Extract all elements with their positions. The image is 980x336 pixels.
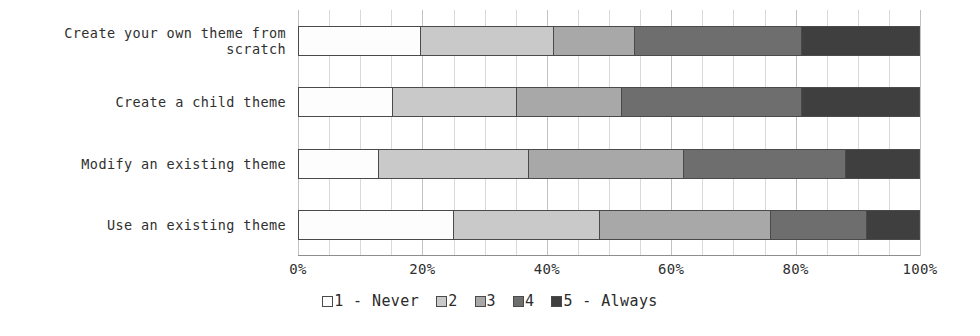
legend-swatch-icon [551,296,562,307]
bar-segment-1[interactable] [299,88,392,116]
legend-label: 1 - Never [334,292,419,310]
legend-swatch-icon [322,296,333,307]
bar-segment-3[interactable] [528,150,683,178]
x-axis-tick-label: 100% [903,260,938,278]
bar-segment-5[interactable] [845,150,919,178]
bar-segment-3[interactable] [516,88,621,116]
legend-item[interactable]: 4 [513,292,534,310]
bar-segment-5[interactable] [801,88,919,116]
category-label-line: scratch [0,41,286,57]
stacked-bar-chart: Create your own theme fromscratchCreate … [0,0,980,336]
plot-area [298,10,920,256]
legend-item[interactable]: 1 - Never [322,292,419,310]
legend-swatch-icon [436,296,447,307]
category-label-line: Create a child theme [0,94,286,110]
x-axis-tick-labels: 0%20%40%60%80%100% [298,260,920,282]
bar-segment-1[interactable] [299,27,420,55]
category-label: Use an existing theme [0,217,286,233]
y-axis-category-labels: Create your own theme fromscratchCreate … [0,10,292,256]
legend-label: 4 [525,292,534,310]
legend-item[interactable]: 3 [475,292,496,310]
category-label-line: Use an existing theme [0,217,286,233]
stacked-bar[interactable] [298,87,920,117]
legend-label: 5 - Always [563,292,657,310]
x-axis-tick-label: 80% [783,260,809,278]
category-label-line: Create your own theme from [0,25,286,41]
bar-segment-3[interactable] [553,27,634,55]
category-label-line: Modify an existing theme [0,156,286,172]
category-label: Create a child theme [0,94,286,110]
gridline-major [920,10,921,256]
bar-segment-1[interactable] [299,211,453,239]
stacked-bar[interactable] [298,26,920,56]
bar-segment-5[interactable] [801,27,919,55]
x-axis-line [298,255,920,256]
legend-item[interactable]: 2 [436,292,457,310]
stacked-bar[interactable] [298,210,920,240]
bar-segment-2[interactable] [378,150,529,178]
category-label: Create your own theme fromscratch [0,25,286,57]
x-axis-tick-label: 0% [289,260,306,278]
legend-item[interactable]: 5 - Always [551,292,657,310]
x-axis-tick-label: 40% [534,260,560,278]
bar-segment-2[interactable] [392,88,516,116]
bar-segment-1[interactable] [299,150,378,178]
bar-segment-4[interactable] [634,27,801,55]
category-label: Modify an existing theme [0,156,286,172]
bar-segment-4[interactable] [621,88,801,116]
x-axis-tick-label: 20% [409,260,435,278]
bar-segment-4[interactable] [683,150,844,178]
chart-legend: 1 - Never2345 - Always [0,292,980,310]
bar-series-container [298,10,920,256]
legend-swatch-icon [475,296,486,307]
bar-segment-5[interactable] [866,211,919,239]
bar-segment-2[interactable] [420,27,553,55]
legend-label: 3 [487,292,496,310]
bar-segment-3[interactable] [599,211,770,239]
stacked-bar[interactable] [298,149,920,179]
x-axis-tick-label: 60% [658,260,684,278]
bar-segment-4[interactable] [770,211,866,239]
legend-label: 2 [448,292,457,310]
bar-segment-2[interactable] [453,211,599,239]
legend-swatch-icon [513,296,524,307]
